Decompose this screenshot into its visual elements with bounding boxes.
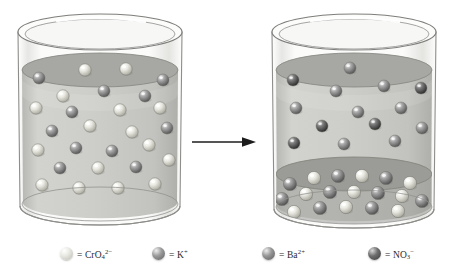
ion-sphere-chromate: [114, 104, 127, 117]
legend-item-chromate: = CrO42−: [60, 247, 112, 260]
right-beaker: [262, 8, 452, 236]
legend-item-barium: = Ba2+: [262, 247, 305, 260]
legend-item-potassium: = K+: [152, 247, 188, 260]
ion-sphere-chromate: [32, 144, 45, 157]
legend-label-barium: = Ba2+: [279, 248, 305, 260]
ion-sphere-barium: [371, 186, 385, 199]
ion-sphere-chromate: [92, 162, 105, 175]
ion-sphere-chromate: [154, 102, 167, 115]
ion-sphere-chromate: [149, 178, 162, 191]
figure-canvas: = CrO42−= K+= Ba2+= NO3−: [0, 0, 457, 279]
legend-sphere-nitrate: [368, 247, 381, 260]
ion-sphere-chromate: [84, 120, 97, 133]
beaker-rim-inner: [279, 19, 429, 49]
ion-sphere-chromate: [395, 189, 409, 202]
legend-sphere-barium: [262, 247, 275, 260]
ion-sphere-chromate: [339, 200, 353, 213]
ion-sphere-chromate: [355, 169, 369, 182]
ion-sphere-chromate: [143, 139, 156, 152]
ion-sphere-barium: [365, 201, 379, 214]
ion-sphere-chromate: [57, 90, 70, 103]
legend-item-nitrate: = NO3−: [368, 247, 414, 260]
ion-sphere-chromate: [391, 204, 405, 217]
ion-sphere-barium: [313, 201, 327, 214]
ion-sphere-chromate: [120, 63, 133, 76]
ion-sphere-chromate: [36, 179, 49, 192]
reaction-arrow: [190, 132, 260, 152]
ion-sphere-chromate: [163, 154, 176, 167]
beaker-rim-inner: [25, 19, 175, 49]
ion-sphere-barium: [323, 185, 337, 198]
ion-sphere-chromate: [307, 171, 321, 184]
ion-sphere-barium: [331, 169, 345, 182]
ion-sphere-chromate: [126, 126, 139, 139]
legend: = CrO42−= K+= Ba2+= NO3−: [0, 243, 457, 275]
ion-sphere-barium: [379, 171, 393, 184]
legend-sphere-potassium: [152, 247, 165, 260]
legend-label-chromate: = CrO42−: [77, 248, 112, 260]
left-beaker: [8, 8, 190, 233]
ion-sphere-chromate: [347, 185, 361, 198]
ion-sphere-chromate: [79, 64, 92, 77]
ion-sphere-chromate: [30, 102, 43, 115]
ion-sphere-chromate: [403, 176, 417, 189]
legend-sphere-chromate: [60, 247, 73, 260]
ion-sphere-barium: [283, 177, 297, 190]
legend-label-nitrate: = NO3−: [385, 248, 414, 260]
legend-label-potassium: = K+: [169, 248, 188, 260]
